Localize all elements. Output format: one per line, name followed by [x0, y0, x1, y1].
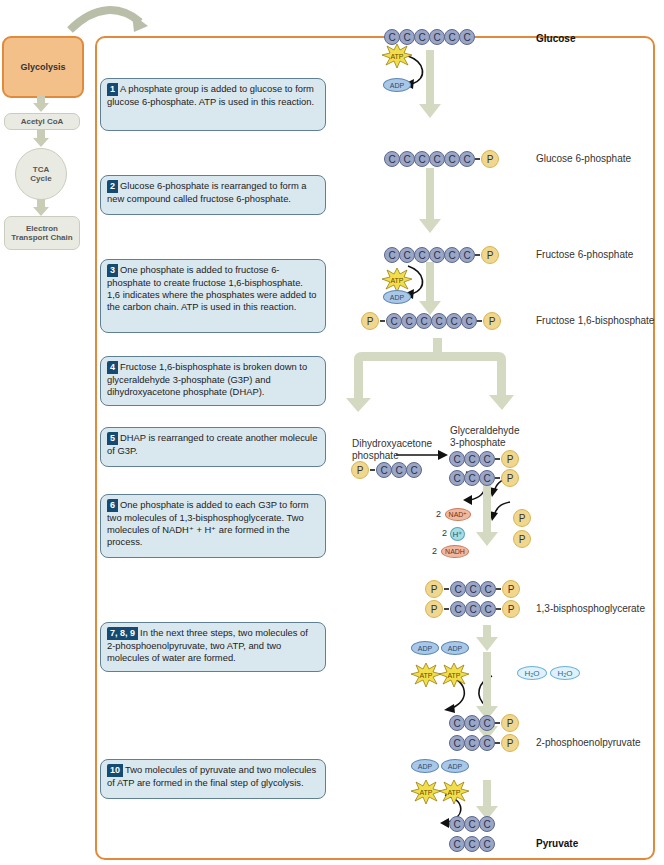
pathway-arrow [483, 652, 491, 708]
nadh-coefficient: 2 [432, 546, 437, 556]
g6p-label: Glucose 6-phosphate [536, 153, 631, 164]
pyruvate-molecule: CCC [449, 816, 494, 832]
atp-icon: ATP [411, 663, 441, 687]
carbon-atom: C [444, 151, 460, 167]
phosphate-group: P [481, 150, 499, 168]
carbon-atom: C [464, 816, 480, 832]
phosphate-group: P [481, 246, 499, 264]
carbon-atom: C [459, 151, 475, 167]
g3p-molecule: CCC P [449, 450, 519, 468]
carbon-atom: C [449, 470, 465, 486]
sidebar-item-label: Acetyl CoA [21, 117, 64, 126]
carbon-atom: C [431, 313, 447, 329]
nadh-icon: NADH [441, 545, 469, 558]
carbon-atom: C [414, 247, 430, 263]
sidebar-item-electron-transport-chain[interactable]: Electron Transport Chain [4, 216, 80, 250]
water-icon: H₂O [517, 666, 547, 680]
carbon-atom: C [479, 816, 495, 832]
bond [495, 742, 500, 744]
carbon-atom: C [464, 836, 480, 852]
phosphate-group: P [501, 714, 519, 732]
dhap-label: Dihydroxyacetone phosphate [352, 438, 432, 461]
nad-coefficient: 2 [436, 509, 441, 519]
bond [444, 608, 449, 610]
step-3: 3One phosphate is added to fructose 6-ph… [100, 259, 326, 333]
step-1: 1A phosphate group is added to glucose t… [100, 78, 326, 131]
carbon-atom: C [464, 470, 480, 486]
step-text: Fructose 1,6-bisphosphate is broken down… [107, 361, 307, 397]
carbon-atom: C [384, 247, 400, 263]
sidebar-item-label: Electron Transport Chain [9, 224, 75, 242]
phosphate-group: P [425, 600, 443, 618]
pathway-arrow [426, 50, 434, 105]
carbon-atom: C [444, 29, 460, 45]
sidebar-item-tca-cycle[interactable]: TCA Cycle [15, 148, 67, 200]
pep-molecule: CCC P [449, 734, 519, 752]
pathway-arrow [483, 780, 491, 808]
bond [444, 588, 449, 590]
step-6: 6One phosphate is added to each G3P to f… [100, 494, 326, 558]
step-7-8-9: 7, 8, 9In the next three steps, two mole… [100, 622, 326, 672]
bond [475, 158, 480, 160]
f16bp-label: Fructose 1,6-bisphosphate [536, 315, 654, 326]
dhap-molecule: P CCC [351, 461, 421, 479]
sidebar-item-glycolysis[interactable]: Glycolysis [2, 36, 84, 98]
pathway-arrow-head [419, 219, 441, 233]
carbon-atom: C [429, 247, 445, 263]
phosphate-group: P [501, 469, 519, 487]
step-number: 7, 8, 9 [107, 627, 138, 640]
carbon-atom: C [480, 601, 496, 617]
carbon-atom: C [465, 581, 481, 597]
pyruvate-molecule: CCC [449, 836, 494, 852]
bond [475, 254, 480, 256]
step-number: 10 [107, 764, 123, 777]
carbon-atom: C [461, 313, 477, 329]
carbon-atom: C [416, 313, 432, 329]
carbon-atom: C [464, 715, 480, 731]
phosphate-group: P [351, 461, 369, 479]
step-4: 4Fructose 1,6-bisphosphate is broken dow… [100, 356, 326, 406]
atp-icon: ATP [382, 268, 412, 292]
carbon-atom: C [459, 247, 475, 263]
carbon-atom: C [401, 313, 417, 329]
f16bp-molecule: P CCCCCC P [361, 312, 501, 330]
water-icon: H₂O [550, 666, 580, 680]
carbon-atom: C [479, 735, 495, 751]
bond [495, 477, 500, 479]
carbon-atom: C [391, 462, 407, 478]
carbon-atom: C [449, 451, 465, 467]
g3p-molecule: CCC P [449, 469, 519, 487]
step-number: 4 [107, 361, 118, 374]
bond [496, 608, 501, 610]
f6p-label: Fructose 6-phosphate [536, 249, 633, 260]
g3p-label: Glyceraldehyde 3-phosphate [450, 425, 522, 448]
bond [495, 722, 500, 724]
step-text: One phosphate is added to fructose 6-pho… [107, 264, 317, 312]
adp-icon: ADP [383, 78, 411, 92]
carbon-atom: C [479, 451, 495, 467]
bond [370, 469, 375, 471]
carbon-atom: C [449, 836, 465, 852]
pathway-arrow-head [476, 637, 498, 651]
glucose-molecule: CCCCCC [384, 29, 474, 45]
phosphate-group: P [425, 580, 443, 598]
carbon-atom: C [459, 29, 475, 45]
carbon-atom: C [399, 29, 415, 45]
carbon-atom: C [414, 29, 430, 45]
adp-icon: ADP [411, 641, 439, 655]
step-text: Two molecules of pyruvate and two molecu… [107, 764, 316, 788]
carbon-atom: C [449, 715, 465, 731]
phosphate-group: P [502, 580, 520, 598]
sidebar-item-label: TCA Cycle [26, 165, 56, 183]
step-2: 2Glucose 6-phosphate is rearranged to fo… [100, 175, 326, 215]
carbon-atom: C [450, 601, 466, 617]
carbon-atom: C [376, 462, 392, 478]
carbon-atom: C [429, 29, 445, 45]
pathway-arrow [426, 262, 434, 302]
step-number: 6 [107, 499, 118, 512]
carbon-atom: C [384, 151, 400, 167]
sidebar-item-acetyl-coa[interactable]: Acetyl CoA [4, 113, 80, 130]
pathway-arrow-head [476, 532, 498, 546]
carbon-atom: C [406, 462, 422, 478]
pyruvate-label: Pyruvate [536, 838, 578, 849]
